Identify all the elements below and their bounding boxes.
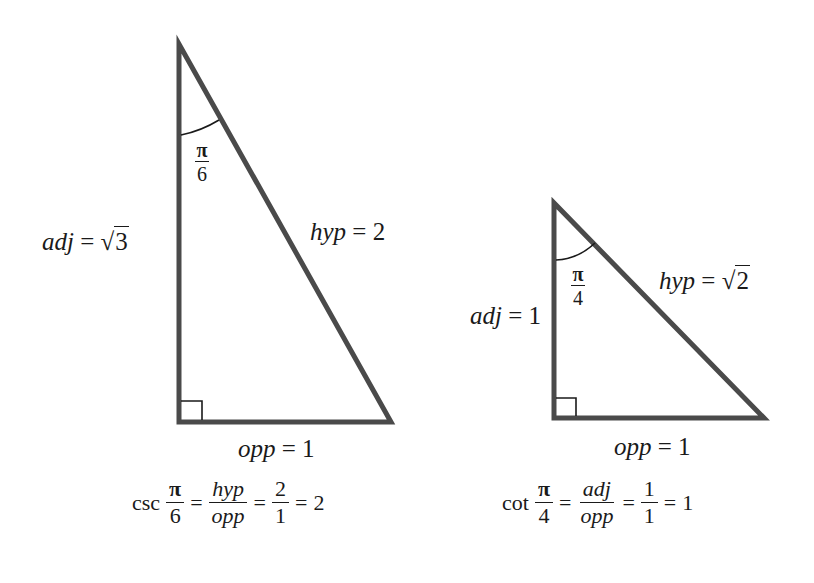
right-hyp-label: hyp = √2 <box>659 268 750 293</box>
angle-numerator: π <box>195 140 210 162</box>
angle-numerator: π <box>571 264 586 286</box>
right-angle-arc <box>556 243 595 260</box>
angle-denominator: 4 <box>570 286 586 308</box>
right-triangle <box>554 203 764 418</box>
left-angle-label: π 6 <box>194 140 210 184</box>
angle-denominator: 6 <box>194 162 210 184</box>
left-adj-label: adj = √3 <box>42 229 129 254</box>
right-opp-label: opp = 1 <box>614 434 691 459</box>
right-formula: cot π 4 = adj opp = 1 1 = 1 <box>502 478 693 527</box>
left-hyp-label: hyp = 2 <box>310 219 385 244</box>
left-angle-arc <box>181 120 219 135</box>
left-formula: csc π 6 = hyp opp = 2 1 = 2 <box>132 478 324 527</box>
sqrt-symbol: √3 <box>101 229 129 254</box>
right-adj-label: adj = 1 <box>470 303 541 328</box>
right-angle-label: π 4 <box>570 264 586 308</box>
right-right-angle-marker <box>556 398 576 416</box>
sqrt-symbol: √2 <box>722 268 750 293</box>
left-right-angle-marker <box>181 401 202 420</box>
left-opp-label: opp = 1 <box>238 436 315 461</box>
